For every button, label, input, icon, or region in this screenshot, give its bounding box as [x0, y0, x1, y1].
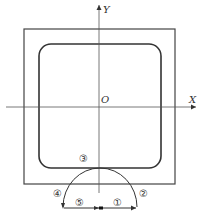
label-step-5: ⑤ — [75, 197, 84, 208]
label-step-3: ③ — [79, 153, 88, 164]
start-point-marker — [99, 207, 103, 210]
label-step-1: ① — [113, 197, 122, 208]
outer-boundary — [24, 29, 175, 184]
x-axis-label: X — [188, 94, 197, 105]
label-step-4: ④ — [53, 188, 62, 199]
origin-label: O — [101, 94, 109, 105]
y-axis-label: Y — [103, 4, 111, 15]
inner-rounded-contour — [39, 44, 161, 168]
machining-path-diagram: Y X O ③ ④ ② ⑤ ① — [0, 0, 201, 220]
center-arrow — [94, 206, 99, 210]
label-step-2: ② — [139, 188, 148, 199]
